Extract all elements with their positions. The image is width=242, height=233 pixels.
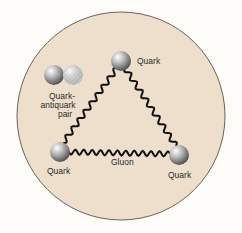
- label-right-quark: Quark: [168, 171, 191, 180]
- quark-diagram: Quark Quark- antiquark pair Quark Gluon …: [0, 0, 242, 233]
- label-quark-antiquark-pair: Quark- antiquark pair: [40, 92, 84, 119]
- label-gluon: Gluon: [111, 158, 134, 167]
- pair-line-3: pair: [46, 110, 84, 119]
- quark-ball-top: [111, 51, 131, 71]
- quark-ball-left: [50, 142, 70, 162]
- label-top-quark: Quark: [137, 57, 160, 66]
- quark-ball-right: [169, 145, 189, 165]
- diagram-graphic: [0, 0, 242, 233]
- quark-ball-pair: [44, 65, 64, 85]
- label-left-quark: Quark: [47, 167, 70, 176]
